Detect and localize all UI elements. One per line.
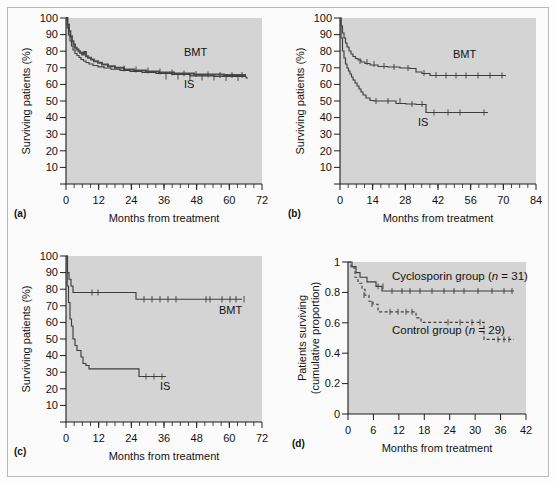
panel-a-ytick-30: 30	[46, 128, 58, 140]
panel-a-xtick-24: 24	[125, 194, 137, 206]
panel-a-xtick-0: 0	[63, 194, 69, 206]
panel-c-xtick-60: 60	[223, 432, 235, 444]
panel-d-ytick-02: 0.2	[325, 377, 340, 389]
panel-c-xtick-12: 12	[93, 432, 105, 444]
panel-d-ylabel-line1: Patients surviving	[296, 295, 308, 381]
panel-a-ytick-80: 80	[46, 45, 58, 57]
panel-d: 0 0.2 0.4 0.6 0.8 1 0 6 12 18 24 30 36	[288, 248, 546, 468]
panel-a-ytick-10: 10	[46, 161, 58, 173]
panel-a-x-major-ticks	[66, 184, 262, 190]
panel-d-xtick-30: 30	[469, 424, 481, 436]
panel-a-xtick-48: 48	[191, 194, 203, 206]
panel-c-xtick-36: 36	[158, 432, 170, 444]
panel-b: 10 20 30 40 50 60 70 80 90 100	[288, 10, 546, 230]
panel-c-label-is: IS	[160, 380, 170, 392]
panel-b-ytick-10: 10	[320, 161, 332, 173]
panel-c-tag: (c)	[14, 446, 26, 457]
panel-b-label-bmt: BMT	[453, 48, 477, 60]
panel-a-xlabel: Months from treatment	[109, 212, 220, 224]
panel-a-ytick-50: 50	[46, 95, 58, 107]
panel-b-x-tick-labels: 0 14 28 42 56 70 84	[337, 194, 542, 206]
panel-b-ytick-40: 40	[320, 111, 332, 123]
panel-c-ytick-10: 10	[46, 399, 58, 411]
panel-b-xtick-70: 70	[497, 194, 509, 206]
panel-d-ytick-06: 0.6	[325, 317, 340, 329]
panel-a-label-bmt: BMT	[184, 46, 208, 58]
panel-a-ytick-60: 60	[46, 78, 58, 90]
panel-c: 10 20 30 40 50 60 70 80 90 100	[14, 248, 272, 468]
panel-d-ytick-1: 1	[334, 256, 340, 268]
panel-d-xtick-24: 24	[444, 424, 456, 436]
panel-c-label-bmt: BMT	[219, 304, 243, 316]
figure-container: 10 20 30 40 50 60 70 80 90 100	[0, 0, 556, 484]
panel-d-xtick-12: 12	[393, 424, 405, 436]
panel-b-plot-background	[340, 18, 536, 184]
panel-a-ytick-100: 100	[40, 12, 58, 24]
panel-b-xlabel: Months from treatment	[383, 212, 494, 224]
panel-d-x-major-ticks	[348, 414, 526, 420]
panel-b-ytick-50: 50	[320, 95, 332, 107]
panel-c-xtick-48: 48	[191, 432, 203, 444]
panel-b-ytick-90: 90	[320, 28, 332, 40]
panel-d-xtick-18: 18	[418, 424, 430, 436]
panel-d-ytick-08: 0.8	[325, 286, 340, 298]
panel-c-ytick-30: 30	[46, 366, 58, 378]
panel-c-ytick-80: 80	[46, 283, 58, 295]
panel-a: 10 20 30 40 50 60 70 80 90 100	[14, 10, 272, 230]
panel-d-ytick-0: 0	[334, 408, 340, 420]
panel-d-ytick-04: 0.4	[325, 347, 340, 359]
panel-a-x-tick-labels: 0 12 24 36 48 60 72	[63, 194, 268, 206]
panel-a-ytick-20: 20	[46, 145, 58, 157]
panel-b-xtick-84: 84	[530, 194, 542, 206]
panel-a-label-is: IS	[184, 78, 194, 90]
panel-b-ytick-20: 20	[320, 145, 332, 157]
panel-b-xtick-28: 28	[399, 194, 411, 206]
panel-c-ytick-60: 60	[46, 316, 58, 328]
panel-b-ylabel: Surviving patients (%)	[294, 48, 306, 155]
panel-d-x-tick-labels: 0 6 12 18 24 30 36 42	[345, 424, 532, 436]
panel-c-plot-background	[66, 256, 262, 422]
panel-a-ytick-70: 70	[46, 62, 58, 74]
panel-c-ytick-70: 70	[46, 300, 58, 312]
panel-c-ytick-100: 100	[40, 250, 58, 262]
panel-b-x-major-ticks	[340, 184, 536, 190]
panel-d-xtick-0: 0	[345, 424, 351, 436]
panel-d-xtick-6: 6	[370, 424, 376, 436]
panel-c-xlabel: Months from treatment	[109, 450, 220, 462]
panel-a-ytick-40: 40	[46, 111, 58, 123]
panel-c-ytick-50: 50	[46, 333, 58, 345]
panel-c-xtick-72: 72	[256, 432, 268, 444]
panel-c-xtick-24: 24	[125, 432, 137, 444]
panel-b-tag: (b)	[288, 208, 301, 219]
panel-b-ytick-70: 70	[320, 62, 332, 74]
panel-d-label-cyclosporin: Cyclosporin group (n = 31)	[392, 270, 528, 282]
panel-a-plot-background	[66, 18, 262, 184]
panel-d-xtick-36: 36	[494, 424, 506, 436]
panel-a-xtick-60: 60	[223, 194, 235, 206]
panel-b-ytick-80: 80	[320, 45, 332, 57]
panel-b-ytick-60: 60	[320, 78, 332, 90]
panel-b-ytick-100: 100	[314, 12, 332, 24]
panel-d-tag: (d)	[292, 438, 305, 449]
panel-d-label-control: Control group (n = 29)	[392, 324, 505, 336]
panel-b-xtick-14: 14	[367, 194, 379, 206]
panel-a-xtick-72: 72	[256, 194, 268, 206]
panel-d-plot-background	[348, 262, 526, 414]
panel-c-ytick-20: 20	[46, 383, 58, 395]
panel-c-x-tick-labels: 0 12 24 36 48 60 72	[63, 432, 268, 444]
panel-b-y-axis: 10 20 30 40 50 60 70 80 90 100	[314, 12, 340, 184]
panel-b-xtick-42: 42	[432, 194, 444, 206]
panel-a-xtick-12: 12	[93, 194, 105, 206]
panel-a-ylabel: Surviving patients (%)	[20, 48, 32, 155]
panel-d-y-axis: 0 0.2 0.4 0.6 0.8 1	[325, 256, 348, 420]
panel-d-ylabel-line2: (cumulative proportion)	[309, 282, 321, 395]
panel-b-label-is: IS	[418, 116, 428, 128]
panel-b-ytick-30: 30	[320, 128, 332, 140]
panel-c-ylabel: Surviving patients (%)	[20, 286, 32, 393]
panel-c-y-axis: 10 20 30 40 50 60 70 80 90 100	[40, 250, 66, 422]
panel-c-x-major-ticks	[66, 422, 262, 428]
panel-c-ytick-90: 90	[46, 266, 58, 278]
panel-a-xtick-36: 36	[158, 194, 170, 206]
panel-d-xlabel: Months from treatment	[382, 442, 493, 454]
panel-a-y-axis: 10 20 30 40 50 60 70 80 90 100	[40, 12, 66, 184]
